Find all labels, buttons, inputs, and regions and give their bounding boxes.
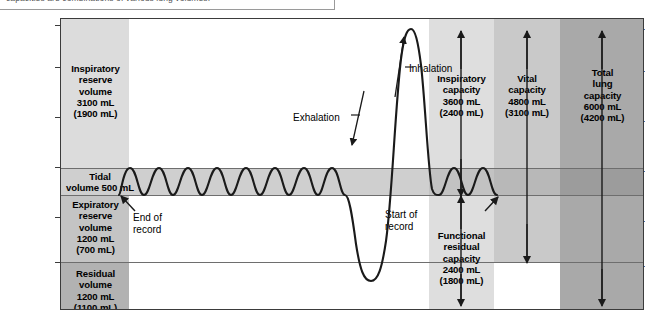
annotation-start-of-record: Start of record bbox=[385, 209, 417, 232]
reference-line-3000ml bbox=[61, 168, 643, 169]
label-inspiratory-capacity: Inspiratory capacity 3600 mL (2400 mL) bbox=[429, 73, 494, 118]
rv-line-4: (1100 mL) bbox=[63, 302, 128, 310]
frc-line-3: capacity bbox=[429, 253, 494, 264]
exhalation-label: Exhalation bbox=[293, 112, 340, 123]
vc-line-3: 4800 mL bbox=[494, 96, 560, 107]
start-of-record-line-1: Start of bbox=[385, 209, 417, 221]
tlc-line-2: lung bbox=[560, 78, 644, 89]
irv-line-5: (1900 mL) bbox=[63, 108, 128, 119]
tlc-line-4: 6000 mL bbox=[560, 101, 644, 112]
end-of-record-line-2: record bbox=[133, 224, 162, 236]
annotation-inhalation: Inhalation bbox=[409, 63, 452, 75]
annotation-end-of-record: End of record bbox=[133, 212, 162, 235]
label-residual-volume: Residual volume 1200 mL (1100 mL) bbox=[63, 268, 128, 310]
tlc-line-5: (4200 mL) bbox=[560, 112, 644, 123]
erv-line-5: (700 mL) bbox=[63, 244, 128, 255]
reference-line-1200ml bbox=[61, 262, 643, 263]
tlc-line-3: capacity bbox=[560, 90, 644, 101]
band-tidal-volume-overlay-vc bbox=[494, 168, 560, 196]
band-vital-capacity bbox=[494, 19, 560, 263]
label-vital-capacity: Vital capacity 4800 mL (3100 mL) bbox=[494, 73, 560, 118]
frc-line-2: residual bbox=[429, 241, 494, 252]
rv-line-1: Residual bbox=[63, 268, 128, 279]
end-of-record-line-1: End of bbox=[133, 212, 162, 224]
erv-line-1: Expiratory bbox=[63, 199, 128, 210]
label-total-lung-capacity: Total lung capacity 6000 mL (4200 mL) bbox=[560, 67, 644, 123]
spirogram-plot-area: Inspiratory reserve volume 3100 mL (1900… bbox=[60, 18, 644, 310]
label-functional-residual-capacity: Functional residual capacity 2400 mL (18… bbox=[429, 230, 494, 286]
inhalation-arrow bbox=[395, 37, 404, 97]
irv-line-3: volume bbox=[63, 86, 128, 97]
label-tidal-volume: Tidal volume 500 mL bbox=[60, 171, 141, 194]
rv-line-2: volume bbox=[63, 279, 128, 290]
erv-line-2: reserve bbox=[63, 210, 128, 221]
figure-caption-box: capacities are combinations of various l… bbox=[0, 0, 335, 10]
ic-line-1: Inspiratory bbox=[429, 73, 494, 84]
irv-line-2: reserve bbox=[63, 74, 128, 85]
tlc-line-1: Total bbox=[560, 67, 644, 78]
irv-line-4: 3100 mL bbox=[63, 97, 128, 108]
frc-line-4: 2400 mL bbox=[429, 264, 494, 275]
figure-caption-text: capacities are combinations of various l… bbox=[6, 0, 210, 3]
label-expiratory-reserve-volume: Expiratory reserve volume 1200 mL (700 m… bbox=[63, 199, 128, 255]
rv-line-3: 1200 mL bbox=[63, 291, 128, 302]
band-tidal-volume-overlay-tlc bbox=[560, 168, 644, 196]
frc-line-1: Functional bbox=[429, 230, 494, 241]
irv-line-1: Inspiratory bbox=[63, 63, 128, 74]
tidal-line-1: Tidal bbox=[60, 171, 141, 182]
ic-line-3: 3600 mL bbox=[429, 96, 494, 107]
vc-line-1: Vital bbox=[494, 73, 560, 84]
erv-line-4: 1200 mL bbox=[63, 233, 128, 244]
erv-line-3: volume bbox=[63, 222, 128, 233]
start-of-record-line-2: record bbox=[385, 221, 417, 233]
vc-line-4: (3100 mL) bbox=[494, 107, 560, 118]
annotation-exhalation: Exhalation bbox=[293, 112, 340, 124]
label-inspiratory-reserve-volume: Inspiratory reserve volume 3100 mL (1900… bbox=[63, 63, 128, 119]
ic-line-4: (2400 mL) bbox=[429, 107, 494, 118]
tidal-line-2: volume 500 mL bbox=[60, 182, 141, 193]
vc-line-2: capacity bbox=[494, 84, 560, 95]
exhalation-arrow bbox=[352, 91, 364, 145]
inhalation-label: Inhalation bbox=[409, 63, 452, 74]
band-tidal-volume-overlay-ic bbox=[429, 168, 494, 196]
frc-line-5: (1800 mL) bbox=[429, 275, 494, 286]
ic-line-2: capacity bbox=[429, 84, 494, 95]
spirogram-figure: capacities are combinations of various l… bbox=[0, 0, 645, 328]
band-total-lung-capacity bbox=[560, 19, 644, 310]
reference-line-2500ml bbox=[61, 195, 643, 196]
